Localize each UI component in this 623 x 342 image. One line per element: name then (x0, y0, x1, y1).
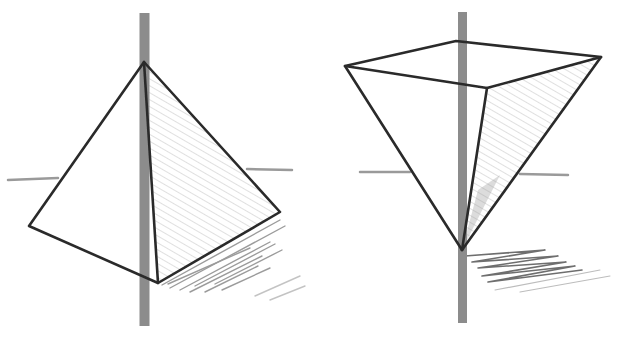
horizon-line-left (8, 178, 58, 180)
upright-pyramid (8, 13, 305, 326)
vertical-rod (458, 12, 467, 323)
cast-shadow (465, 250, 610, 292)
sketch-canvas: Pencil sketch of two pyramids pierced by… (0, 0, 623, 342)
horizon-line-right (247, 169, 292, 170)
horizon-line-right (520, 174, 568, 175)
pyramids-illustration (0, 0, 623, 342)
shaded-face (144, 62, 280, 283)
inverted-pyramid (345, 12, 610, 323)
